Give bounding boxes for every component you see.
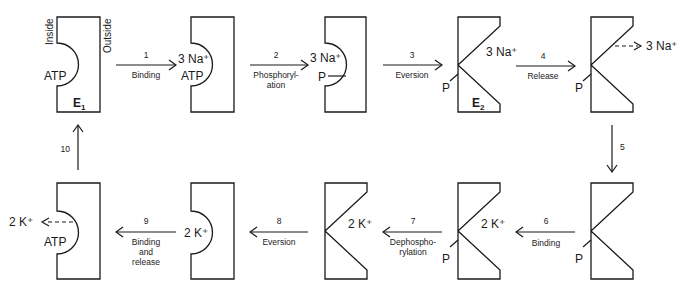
ion-label: 2 K⁺ [481,217,505,231]
e2-conformation-shape [325,183,367,279]
state-2-e1-na-bound: 3 Na⁺ ATP [178,17,234,112]
step-2-label-line1: Phosphoryl- [253,70,299,80]
phosphate-label: P [442,81,450,95]
na-k-pump-diagram: Inside Outside ATP E1 1 Binding 3 Na⁺ AT… [0,0,695,296]
state-9-e1-k-bound: 2 K⁺ [184,183,234,279]
step-9-label-line1: Binding [132,237,161,247]
step-3-label: Eversion [395,70,428,80]
step-9-arrow: 9 Binding and release [116,216,176,267]
step-6-number: 6 [544,216,549,226]
step-6-arrow: 6 Binding [516,216,575,248]
state-6-e2-empty: P [575,183,633,279]
state-7-e2-k-bound: 2 K⁺ P [442,183,505,279]
step-3-number: 3 [410,50,415,60]
state-4-e2-na-bound: 3 Na⁺ P E2 [442,17,517,112]
phosphate-label: P [318,70,326,84]
step-5-arrow: 5 [607,125,625,172]
step-5-number: 5 [620,142,625,152]
step-8-label: Eversion [262,237,295,247]
state-10-e1-k-release: 2 K⁺ ATP [9,183,100,279]
step-4-number: 4 [541,51,546,61]
step-1-arrow: 1 Binding [116,50,176,80]
step-4-arrow: 4 Release [516,51,575,81]
step-8-number: 8 [277,216,282,226]
e1-conformation-shape [57,183,100,279]
e2-conformation-shape [591,183,633,279]
step-6-label: Binding [532,238,561,248]
outside-label: Outside [102,18,113,53]
step-7-label-line2: rylation [399,247,427,257]
step-10-number: 10 [61,144,71,154]
released-ion-label: 3 Na⁺ [646,39,677,53]
step-3-arrow: 3 Eversion [383,50,442,80]
atp-label: ATP [44,69,66,83]
step-2-arrow: 2 Phosphoryl- ation [250,50,308,90]
released-ion-label: 2 K⁺ [9,215,33,229]
inside-label: Inside [44,18,55,45]
step-1-number: 1 [144,50,149,60]
state-3-e1-phosphorylated: 3 Na⁺ P [310,17,366,112]
atp-label: ATP [44,235,66,249]
ion-label: 2 K⁺ [184,226,208,240]
step-7-label-line1: Dephospho- [390,237,436,247]
state-1-e1: Inside Outside ATP E1 [44,17,113,112]
state-5-e2-na-release: 3 Na⁺ P [575,17,677,112]
ion-label: 3 Na⁺ [178,52,209,66]
e2-conformation-shape [458,183,500,279]
e2-conformation-shape [591,17,633,112]
step-2-number: 2 [274,50,279,60]
step-10-arrow: 10 [61,125,83,170]
atp-label: ATP [181,69,203,83]
state-8-e2-k-occluded: 2 K⁺ [325,183,372,279]
step-9-label-line3: release [132,257,160,267]
step-9-label-line2: and [139,247,153,257]
step-9-number: 9 [144,216,149,226]
phosphate-label: P [575,252,583,266]
ion-label: 3 Na⁺ [310,51,341,65]
step-7-arrow: 7 Dephospho- rylation [383,216,442,257]
step-4-label: Release [527,71,558,81]
ion-label: 3 Na⁺ [486,45,517,59]
step-8-arrow: 8 Eversion [250,216,308,247]
step-7-number: 7 [411,216,416,226]
step-2-label-line2: ation [267,80,286,90]
ion-label: 2 K⁺ [348,217,372,231]
step-1-label: Binding [132,70,161,80]
phosphate-label: P [575,81,583,95]
phosphate-label: P [442,252,450,266]
